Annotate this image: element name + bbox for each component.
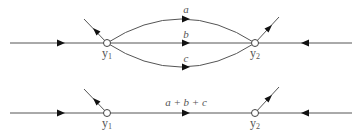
node-y2-label: y2 xyxy=(250,46,260,61)
bottom-graph: a + b + c y1 y2 xyxy=(10,87,352,131)
branch-b-label: b xyxy=(183,28,189,40)
node-y1-label: y1 xyxy=(102,46,112,61)
arrow-right-icon xyxy=(182,16,190,23)
arrow-left-icon xyxy=(301,40,309,47)
combined-branch-label: a + b + c xyxy=(165,96,207,108)
top-graph: a b c y1 y2 xyxy=(10,3,352,71)
branch-a-label: a xyxy=(183,3,189,15)
node-y1-label: y1 xyxy=(102,116,112,131)
branch-c xyxy=(107,43,255,67)
arrow-right-icon xyxy=(182,64,190,71)
branch-c-label: c xyxy=(184,52,189,64)
signal-flow-diagram: a b c y1 y2 a + b + c y1 y2 xyxy=(0,0,362,132)
arrow-right-icon xyxy=(182,110,190,117)
arrow-right-icon xyxy=(57,110,65,117)
arrow-left-icon xyxy=(301,110,309,117)
arrow-right-icon xyxy=(57,40,65,47)
branch-a xyxy=(107,19,255,43)
node-y2-label: y2 xyxy=(250,116,260,131)
arrow-right-icon xyxy=(182,40,190,47)
